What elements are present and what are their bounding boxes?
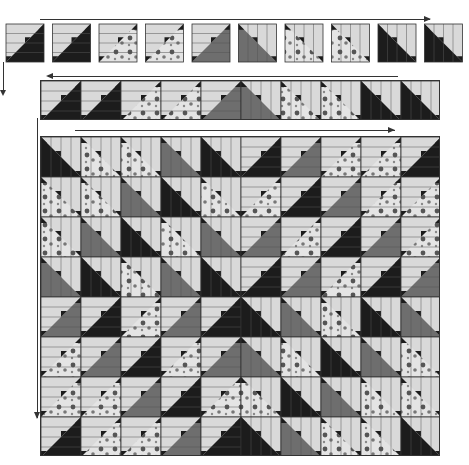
block-strip	[40, 80, 440, 120]
block-9	[378, 24, 416, 62]
arrow-quilt-right	[75, 130, 395, 131]
block-3	[99, 24, 137, 62]
block-4	[146, 24, 184, 62]
block-7	[285, 24, 323, 62]
block-1	[6, 24, 44, 62]
arrowhead-right-icon	[388, 127, 395, 133]
block-6	[239, 24, 277, 62]
block-10	[425, 24, 463, 62]
arrow-quilt-down	[37, 118, 38, 418]
block-8	[332, 24, 370, 62]
block-5	[192, 24, 230, 62]
arrowhead-down-icon	[0, 90, 6, 96]
block-2	[53, 24, 91, 62]
quilt-top	[40, 136, 440, 456]
